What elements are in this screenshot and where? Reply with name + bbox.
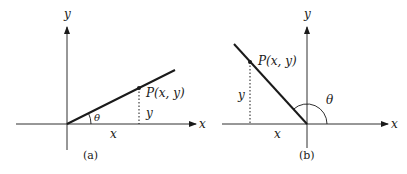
x-axis-label: x xyxy=(391,117,398,131)
angle-label: θ xyxy=(326,93,334,107)
leg-x-label: x xyxy=(110,127,117,141)
panel-b: x y P(x, y) y θ x (b) xyxy=(222,7,398,162)
leg-y-label: y xyxy=(145,106,153,120)
point-label: P(x, y) xyxy=(257,54,297,68)
y-axis-label: y xyxy=(63,7,71,21)
angle-arc xyxy=(89,113,92,124)
leg-y-label: y xyxy=(237,88,245,102)
angle-label: θ xyxy=(94,112,100,123)
leg-x-label: x xyxy=(274,127,281,141)
x-axis-label: x xyxy=(199,117,206,131)
point-label: P(x, y) xyxy=(145,86,185,100)
caption: (b) xyxy=(299,149,315,162)
y-axis-label: y xyxy=(303,7,311,21)
figure: x y P(x, y) y θ x (a) x y P(x, y) y θ x … xyxy=(0,0,407,174)
panel-a: x y P(x, y) y θ x (a) xyxy=(16,7,206,162)
caption: (a) xyxy=(83,149,98,162)
